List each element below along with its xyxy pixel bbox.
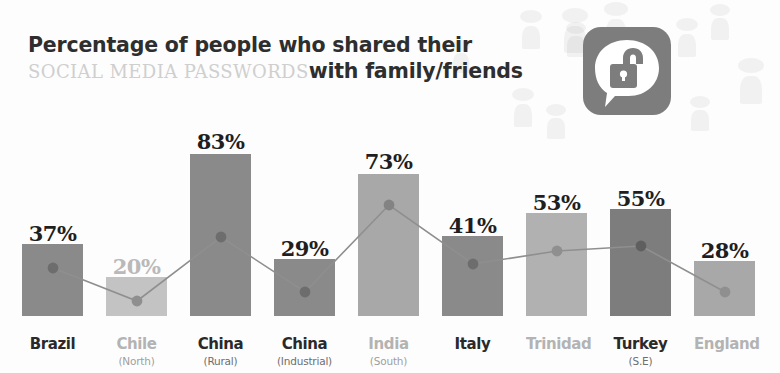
category-sublabel-china-rural: (Rural) [190,355,251,367]
value-label-turkey-se: 55% [610,186,671,211]
value-label-brazil: 37% [22,221,83,246]
value-label-china-rural: 83% [190,129,251,154]
category-label-italy: Italy [442,335,503,353]
category-label-turkey: Turkey [610,335,671,353]
bar-italy [442,236,503,316]
value-label-england: 28% [694,238,755,263]
category-label-chile: Chile [106,335,167,353]
bar-china-industrial [274,259,335,316]
page-title: Percentage of people who shared their SO… [28,33,548,86]
person-silhouette-icon [710,4,730,42]
value-label-chile-north: 20% [106,254,167,279]
bar-chile-north [106,277,167,316]
category-label-brazil: Brazil [22,335,83,353]
category-label-england: England [694,335,755,353]
bar-india-south [358,174,419,316]
bar-turkey-se [610,209,671,316]
category-sublabel-china-industrial: (Industrial) [274,355,335,367]
category-label-trinidad: Trinidad [526,335,587,353]
value-label-china-industrial: 29% [274,236,335,261]
category-sublabel-turkey: (S.E) [610,355,671,367]
bar-brazil [22,244,83,316]
bar-china-rural [190,154,251,316]
title-tail-text: with family/friends [309,59,523,83]
person-silhouette-icon [738,58,764,106]
category-sublabel-chile: (North) [106,355,167,367]
title-emphasis-text: SOCIAL MEDIA PASSWORDS [28,61,309,82]
category-label-india: India [358,335,419,353]
title-line-primary: Percentage of people who shared their [28,33,548,58]
category-label-china-rural: China [190,335,251,353]
bar-chart: 37% 20% 83% 29% 73% 41% 53% 55% 28% Braz… [0,115,780,373]
value-label-trinidad: 53% [526,190,587,215]
value-label-italy: 41% [442,213,503,238]
category-sublabel-india: (South) [358,355,419,367]
bar-trinidad [526,213,587,316]
person-silhouette-icon [676,18,698,58]
infographic-canvas: Percentage of people who shared their SO… [0,0,780,373]
bar-england [694,261,755,316]
speech-bubble-open-padlock-icon [583,27,671,115]
title-line-secondary: SOCIAL MEDIA PASSWORDSwith family/friend… [28,58,548,86]
category-label-china-industrial: China [274,335,335,353]
value-label-india-south: 73% [358,149,419,174]
